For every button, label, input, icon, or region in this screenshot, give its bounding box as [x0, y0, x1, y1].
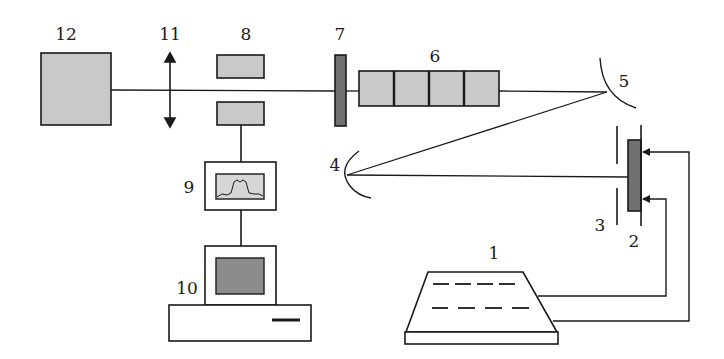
label-6: 6 [430, 46, 441, 66]
beam-6-to-5 [499, 91, 607, 92]
label-4: 4 [330, 155, 341, 175]
detector-block-top [217, 55, 264, 78]
label-2: 2 [629, 231, 640, 251]
beam-4-to-2 [347, 175, 628, 177]
detector-block-bottom [217, 102, 264, 125]
wire-lower-electrode [538, 199, 666, 296]
beam-12-to-7 [111, 90, 335, 91]
optical-setup-diagram: 12 11 8 9 10 7 6 5 [0, 0, 724, 359]
label-3: 3 [595, 215, 606, 235]
component-12-source-box [41, 53, 111, 125]
label-11: 11 [159, 24, 181, 44]
component-9-display [205, 162, 276, 210]
computer-base [169, 305, 311, 341]
label-8: 8 [241, 24, 252, 44]
label-12: 12 [55, 24, 77, 44]
display-screen [216, 174, 264, 199]
component-7-plate [335, 55, 346, 126]
computer-screen [216, 258, 264, 294]
label-10: 10 [176, 278, 198, 298]
component-1-power-supply [405, 272, 558, 344]
label-5: 5 [619, 71, 630, 91]
label-9: 9 [184, 177, 195, 197]
component-6-segmented-block [359, 71, 499, 106]
component-2-emitter [628, 125, 641, 226]
label-1: 1 [489, 243, 500, 263]
label-7: 7 [335, 24, 346, 44]
